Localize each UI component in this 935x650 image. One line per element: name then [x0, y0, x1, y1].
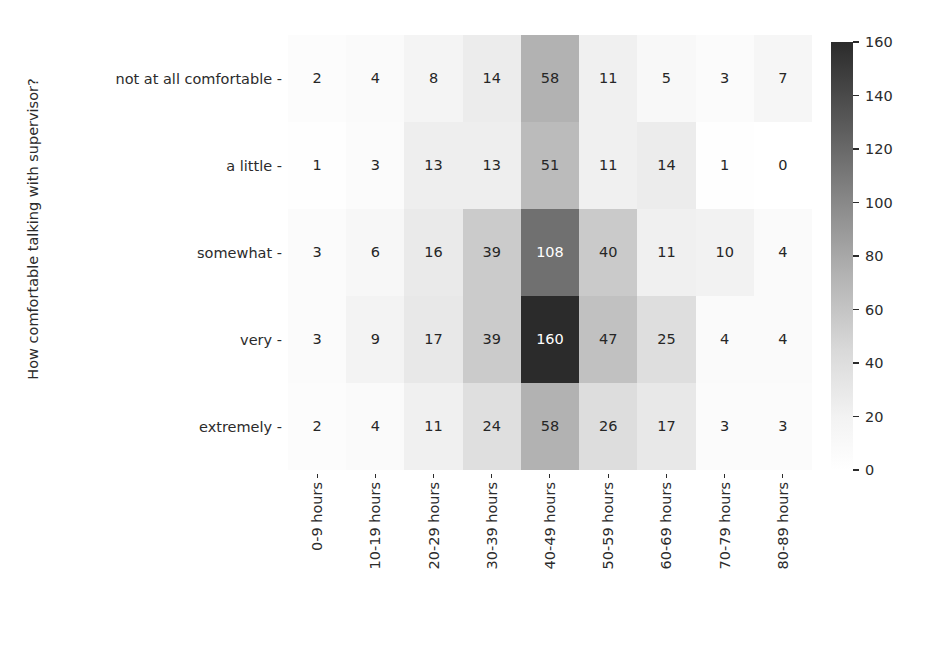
heatmap-cell: 0 [754, 122, 812, 209]
heatmap-cell: 51 [521, 122, 579, 209]
colorbar-tick: 60 [853, 302, 883, 318]
colorbar-tick-text: 100 [865, 195, 893, 211]
y-tick-text: very [240, 332, 272, 348]
heatmap-cell: 5 [637, 35, 695, 122]
x-tick-mark [549, 474, 550, 478]
x-tick-label: 0-9 hours [288, 470, 346, 645]
y-tick-text: extremely [199, 419, 272, 435]
x-tick-text: 70-79 hours [717, 482, 733, 570]
x-tick-text: 20-29 hours [426, 482, 442, 570]
heatmap-cell: 11 [404, 383, 462, 470]
x-tick-mark [491, 474, 492, 478]
heatmap-cell: 3 [288, 209, 346, 296]
colorbar-tick: 120 [853, 141, 893, 157]
heatmap-cell: 4 [346, 35, 404, 122]
y-tick-dash: - [272, 245, 282, 261]
heatmap-cell: 3 [696, 35, 754, 122]
x-tick-text: 80-89 hours [775, 482, 791, 570]
heatmap-cell: 14 [463, 35, 521, 122]
x-tick-labels: 0-9 hours10-19 hours20-29 hours30-39 hou… [288, 470, 812, 645]
heatmap-cell: 108 [521, 209, 579, 296]
heatmap-cell: 39 [463, 296, 521, 383]
y-tick-label: very - [52, 332, 282, 348]
heatmap-cell: 14 [637, 122, 695, 209]
x-tick-label: 80-89 hours [754, 470, 812, 645]
heatmap-cell: 47 [579, 296, 637, 383]
x-tick-mark [317, 474, 318, 478]
heatmap-row: 3616391084011104 [288, 209, 812, 296]
heatmap-cell: 16 [404, 209, 462, 296]
y-tick-dash: - [272, 419, 282, 435]
x-tick-text: 0-9 hours [309, 482, 325, 551]
y-tick-text: a little [226, 158, 272, 174]
x-tick-label: 70-79 hours [696, 470, 754, 645]
heatmap-cell: 25 [637, 296, 695, 383]
x-tick-mark [724, 474, 725, 478]
heatmap-row: 24112458261733 [288, 383, 812, 470]
colorbar-tick: 100 [853, 195, 893, 211]
heatmap-cell: 58 [521, 383, 579, 470]
x-tick-text: 10-19 hours [367, 482, 383, 570]
colorbar-tick-text: 0 [865, 462, 874, 478]
heatmap-row: 13131351111410 [288, 122, 812, 209]
colorbar-tick-mark [853, 309, 859, 311]
colorbar-tick-text: 20 [865, 409, 883, 425]
x-tick-label: 60-69 hours [637, 470, 695, 645]
heatmap-cell: 3 [346, 122, 404, 209]
y-tick-label: not at all comfortable - [52, 71, 282, 87]
colorbar-tick-mark [853, 148, 859, 150]
heatmap-grid: 2481458115371313135111141036163910840111… [288, 35, 812, 470]
heatmap-cell: 1 [288, 122, 346, 209]
colorbar [831, 42, 853, 470]
heatmap-cell: 3 [696, 383, 754, 470]
heatmap-cell: 4 [754, 296, 812, 383]
x-tick-mark [375, 474, 376, 478]
y-tick-label: somewhat - [52, 245, 282, 261]
colorbar-tick-mark [853, 202, 859, 204]
colorbar-tick-text: 160 [865, 34, 893, 50]
heatmap-cell: 11 [579, 35, 637, 122]
x-tick-label: 10-19 hours [346, 470, 404, 645]
colorbar-tick-mark [853, 95, 859, 97]
y-tick-dash: - [272, 332, 282, 348]
colorbar-tick: 140 [853, 88, 893, 104]
colorbar-tick-text: 80 [865, 248, 883, 264]
heatmap-cell: 4 [346, 383, 404, 470]
y-tick-text: not at all comfortable [115, 71, 272, 87]
heatmap-cell: 24 [463, 383, 521, 470]
heatmap-cell: 3 [288, 296, 346, 383]
x-tick-label: 30-39 hours [463, 470, 521, 645]
heatmap-cell: 2 [288, 35, 346, 122]
heatmap-cell: 58 [521, 35, 579, 122]
colorbar-tick-mark [853, 416, 859, 418]
colorbar-tick-labels: 020406080100120140160 [853, 42, 933, 470]
colorbar-tick: 160 [853, 34, 893, 50]
chart-title [0, 0, 935, 2]
heatmap-cell: 11 [579, 122, 637, 209]
colorbar-tick-mark [853, 362, 859, 364]
heatmap-cell: 3 [754, 383, 812, 470]
x-tick-text: 50-59 hours [600, 482, 616, 570]
heatmap-cell: 11 [637, 209, 695, 296]
heatmap-cell: 1 [696, 122, 754, 209]
heatmap-cell: 4 [754, 209, 812, 296]
y-tick-dash: - [272, 158, 282, 174]
heatmap-cell: 17 [637, 383, 695, 470]
heatmap-cell: 13 [404, 122, 462, 209]
heatmap-cell: 4 [696, 296, 754, 383]
x-tick-mark [608, 474, 609, 478]
y-axis-label: How comfortable talking with supervisor? [25, 19, 47, 439]
heatmap-cell: 9 [346, 296, 404, 383]
heatmap-cell: 6 [346, 209, 404, 296]
heatmap-cell: 13 [463, 122, 521, 209]
x-tick-label: 40-49 hours [521, 470, 579, 645]
heatmap-cell: 10 [696, 209, 754, 296]
heatmap-cell: 8 [404, 35, 462, 122]
heatmap-cell: 17 [404, 296, 462, 383]
y-tick-labels: not at all comfortable -a little -somewh… [48, 35, 282, 470]
heatmap-row: 391739160472544 [288, 296, 812, 383]
heatmap-cell: 40 [579, 209, 637, 296]
heatmap-row: 248145811537 [288, 35, 812, 122]
heatmap-cell: 26 [579, 383, 637, 470]
heatmap-cell: 2 [288, 383, 346, 470]
